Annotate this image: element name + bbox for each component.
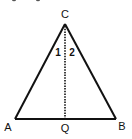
vertex-label-b: B (118, 120, 125, 132)
cropped-text-fragment (36, 0, 40, 1)
angle-label-1: 1 (55, 47, 61, 58)
side-cb (65, 24, 116, 119)
point-label-q: Q (61, 122, 70, 134)
side-ca (15, 24, 65, 119)
vertex-label-a: A (4, 121, 12, 133)
vertex-label-c: C (61, 8, 69, 20)
triangle-diagram: C A B Q 1 2 (0, 0, 132, 139)
angle-label-2: 2 (69, 47, 75, 58)
cropped-text-fragment (12, 0, 16, 1)
